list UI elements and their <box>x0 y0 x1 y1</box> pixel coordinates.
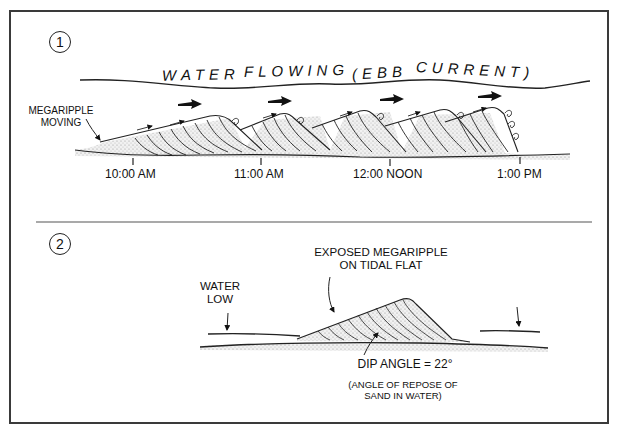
time-mark-10am: 10:00 AM <box>105 167 156 181</box>
right-arrow-icon <box>178 91 502 109</box>
megaripple-label-line-2: ON TIDAL FLAT <box>296 259 466 272</box>
water-low-arrow <box>227 313 228 330</box>
time-mark-1pm: 1:00 PM <box>497 167 542 181</box>
water-surface-line <box>80 80 590 89</box>
water-line-right <box>480 331 540 332</box>
megaripple-sand-bodies <box>75 112 570 160</box>
exposed-megaripple-label: EXPOSED MEGARIPPLE ON TIDAL FLAT <box>296 246 466 272</box>
callout-line-2: MOVING <box>22 117 100 129</box>
megaripple-label-arrow <box>329 277 334 312</box>
flow-label-flowing: FLOWING <box>244 61 349 80</box>
exposed-megaripple-fill <box>297 299 470 342</box>
dip-angle-label: DIP ANGLE = 22° <box>345 358 465 371</box>
megaripple-moving-label: MEGARIPPLE MOVING <box>22 105 100 129</box>
time-mark-noon: 12:00 NOON <box>353 167 422 181</box>
flow-label-ebb: (EBB <box>352 63 408 83</box>
megaripple-label-line-1: EXPOSED MEGARIPPLE <box>296 246 466 259</box>
water-low-line-1: WATER <box>190 280 250 293</box>
panel-2-number: 2 <box>49 233 71 255</box>
water-low-line-2: LOW <box>190 293 250 306</box>
water-low-label: WATER LOW <box>190 280 250 306</box>
repose-note-line-2: SAND IN WATER) <box>335 390 471 401</box>
repose-note-line-1: (ANGLE OF REPOSE OF <box>335 379 471 390</box>
time-mark-11am: 11:00 AM <box>234 167 284 181</box>
water-right-arrow <box>517 307 519 326</box>
repose-note: (ANGLE OF REPOSE OF SAND IN WATER) <box>335 379 471 401</box>
water-line-left <box>208 334 300 336</box>
callout-line-1: MEGARIPPLE <box>22 105 100 117</box>
panel-1-number: 1 <box>49 31 71 53</box>
flow-label-water: WATER <box>162 65 240 83</box>
